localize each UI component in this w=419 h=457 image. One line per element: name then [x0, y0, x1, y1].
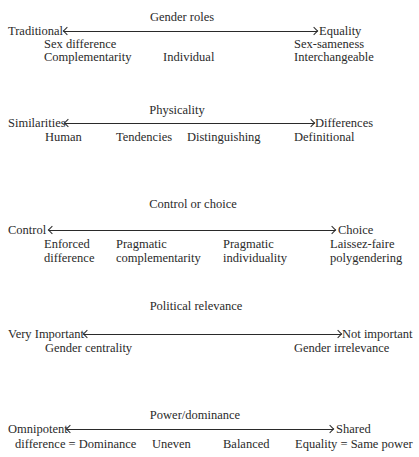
section-title: Control or choice: [149, 197, 236, 211]
double-arrow-icon: [49, 230, 335, 231]
scale-label: Pragmatic: [116, 237, 167, 251]
scale-label: polygendering: [330, 251, 402, 265]
scale-label: Sex-sameness: [294, 37, 364, 51]
scale-label: Enforced: [44, 237, 90, 251]
scale-label: Pragmatic: [223, 237, 274, 251]
left-pole-label: Control: [8, 223, 46, 237]
scale-label: Gender centrality: [45, 341, 132, 355]
scale-label: Equality = Same power: [295, 437, 413, 451]
scale-label: difference = Dominance: [15, 437, 136, 451]
section-title: Power/dominance: [150, 408, 240, 422]
right-pole-label: Differences: [315, 116, 373, 130]
double-arrow-icon: [64, 31, 317, 32]
section-title: Physicality: [149, 103, 205, 117]
double-arrow-icon: [67, 429, 333, 430]
scale-label: Distinguishing: [187, 130, 261, 144]
right-pole-label: Choice: [338, 223, 373, 237]
scale-label: Human: [45, 130, 82, 144]
scale-label: Uneven: [152, 437, 191, 451]
left-pole-label: Very Important: [8, 327, 84, 341]
double-arrow-icon: [65, 123, 314, 124]
right-pole-label: Not important: [342, 327, 412, 341]
scale-label: complementarity: [116, 251, 201, 265]
scale-label: Definitional: [294, 130, 354, 144]
scale-label: Balanced: [223, 437, 270, 451]
left-pole-label: Omnipotent: [8, 422, 68, 436]
scale-label: Complementarity: [44, 50, 131, 64]
scale-label: Laissez-faire: [330, 237, 395, 251]
scale-label: Tendencies: [116, 130, 172, 144]
right-pole-label: Shared: [336, 422, 371, 436]
double-arrow-icon: [84, 334, 341, 335]
right-pole-label: Equality: [319, 24, 361, 38]
left-pole-label: Similarities: [8, 116, 66, 130]
scale-label: Individual: [163, 50, 214, 64]
scale-label: individuality: [223, 251, 287, 265]
scale-label: Interchangeable: [294, 50, 374, 64]
scale-label: Sex difference: [44, 37, 116, 51]
section-title: Gender roles: [150, 10, 214, 24]
left-pole-label: Traditional: [8, 24, 63, 38]
scale-label: difference: [44, 251, 94, 265]
section-title: Political relevance: [150, 299, 243, 313]
scale-label: Gender irrelevance: [294, 341, 389, 355]
